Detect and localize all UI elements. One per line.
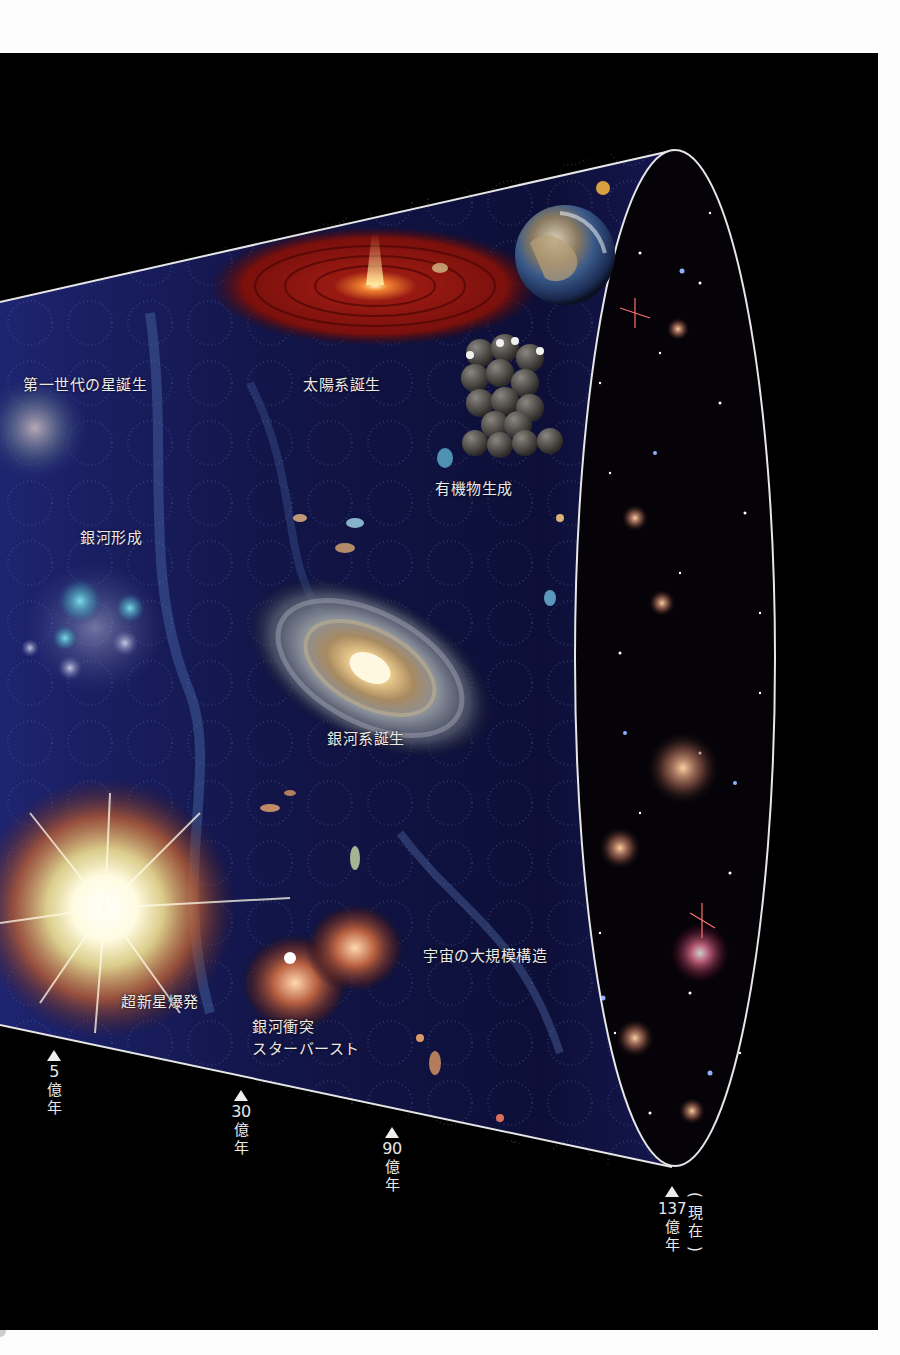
label-galaxy-collision-line2: スターバースト [252, 1040, 360, 1058]
cosmic-history-plate: 第一世代の星誕生 太陽系誕生 有機物生成 銀河形成 銀河系誕生 超新星爆発 銀河… [0, 53, 878, 1330]
label-solar-system: 太陽系誕生 [303, 376, 381, 394]
label-galaxy-collision-line1: 銀河衝突 [252, 1018, 314, 1036]
label-supernova: 超新星爆発 [121, 993, 199, 1011]
timeline-marker-30: 30 億 年 [228, 1090, 254, 1157]
label-first-stars: 第一世代の星誕生 [23, 376, 147, 394]
label-milky-way: 銀河系誕生 [327, 730, 405, 748]
label-galaxy-formation: 銀河形成 [80, 529, 142, 547]
present-universe-ellipse [575, 150, 775, 1166]
timeline-marker-90: 90 億 年 [379, 1127, 405, 1194]
timeline-marker-137-present: 137 億 年 ( 現 在 ) [658, 1186, 706, 1266]
cosmic-history-artwork [0, 53, 878, 1330]
label-large-scale-structure: 宇宙の大規模構造 [423, 947, 547, 965]
timeline-marker-5: 5 億 年 [42, 1050, 66, 1117]
label-organic-matter: 有機物生成 [435, 480, 513, 498]
triangle-up-icon [234, 1090, 248, 1101]
triangle-up-icon [665, 1186, 679, 1197]
triangle-up-icon [47, 1050, 61, 1061]
triangle-up-icon [385, 1127, 399, 1138]
